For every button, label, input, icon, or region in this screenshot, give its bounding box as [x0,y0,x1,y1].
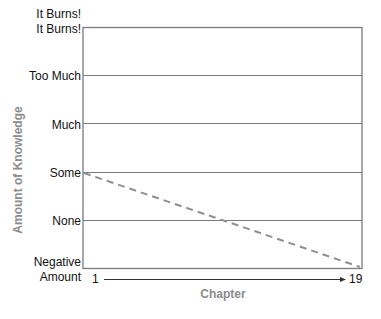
x-axis-arrowhead-icon [340,277,346,282]
x-tick-end: 19 [349,272,362,286]
y-tick-burns-1: It Burns! [36,7,81,21]
y-tick-too-much: Too Much [29,69,81,83]
y-tick-none: None [52,214,81,228]
y-tick-negative-2: Amount [40,270,81,284]
y-tick-burns-2: It Burns! [36,22,81,36]
y-tick-negative-1: Negative [34,255,81,269]
x-tick-start: 1 [92,272,99,286]
y-axis-title: Amount of Knowledge [11,106,25,233]
y-tick-some: Some [50,166,81,180]
x-axis-title: Chapter [200,287,245,301]
y-tick-much: Much [52,118,81,132]
plot-frame [83,28,362,269]
